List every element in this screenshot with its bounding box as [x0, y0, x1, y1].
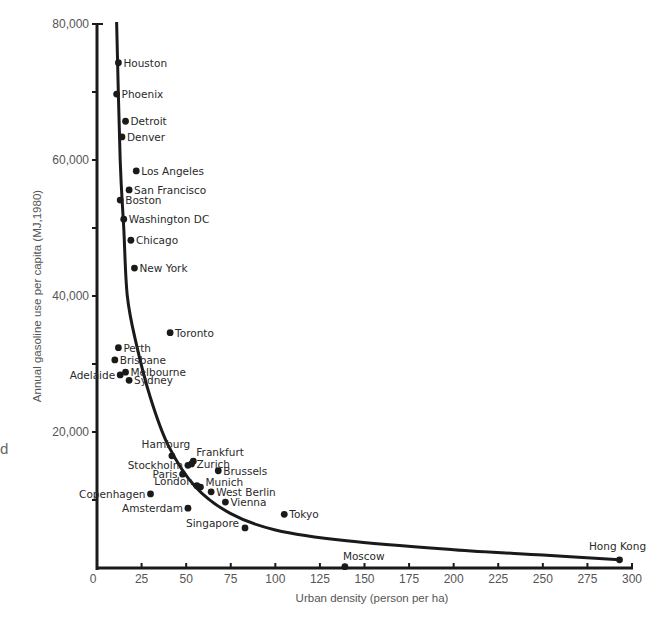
point-label: Adelaide [70, 369, 116, 381]
point-label: Copenhagen [79, 488, 145, 500]
x-tick-label: 75 [224, 572, 238, 586]
point-marker [120, 216, 127, 223]
data-point-hamburg: Hamburg [142, 438, 191, 459]
x-axis: 0255075100125150175200225250275300 [90, 563, 643, 586]
point-label: Moscow [343, 550, 385, 562]
point-marker [117, 197, 124, 204]
y-tick-label: 20,000 [52, 425, 89, 439]
point-marker [341, 563, 348, 570]
point-label: Sydney [134, 374, 173, 386]
x-tick-label: 300 [622, 572, 642, 586]
data-point-brussels: Brussels [215, 465, 267, 477]
data-point-copenhagen: Copenhagen [79, 488, 154, 500]
point-marker [127, 237, 134, 244]
data-point-amsterdam: Amsterdam [122, 502, 191, 514]
x-tick-label: 0 [90, 572, 97, 586]
point-marker [215, 467, 222, 474]
data-point-tokyo: Tokyo [281, 508, 319, 520]
point-marker [147, 490, 154, 497]
data-point-london: London [154, 475, 200, 489]
point-label: Los Angeles [141, 165, 204, 177]
point-marker [222, 499, 229, 506]
data-point-perth: Perth [115, 342, 151, 354]
x-tick-label: 200 [444, 572, 464, 586]
data-point-toronto: Toronto [167, 327, 214, 339]
point-label: Brussels [223, 465, 267, 477]
x-tick-label: 150 [354, 572, 374, 586]
point-marker [113, 91, 120, 98]
x-axis-title: Urban density (person per ha) [296, 592, 449, 604]
x-tick-label: 50 [179, 572, 193, 586]
point-marker [117, 371, 124, 378]
point-label: New York [139, 262, 188, 274]
data-point-washington-dc: Washington DC [120, 213, 209, 225]
point-marker [616, 556, 623, 563]
point-label: London [154, 475, 193, 487]
point-label: Hamburg [142, 438, 191, 450]
point-label: Phoenix [122, 88, 164, 100]
point-label: Singapore [186, 517, 239, 529]
point-marker [185, 462, 192, 469]
x-tick-label: 225 [488, 572, 508, 586]
point-label: Amsterdam [122, 502, 183, 514]
x-tick-label: 100 [265, 572, 285, 586]
x-tick-label: 125 [310, 572, 330, 586]
point-label: Washington DC [129, 213, 209, 225]
point-marker [281, 511, 288, 518]
x-tick-label: 250 [533, 572, 553, 586]
point-marker [133, 167, 140, 174]
point-marker [115, 59, 122, 66]
point-marker [122, 118, 129, 125]
data-point-detroit: Detroit [122, 115, 167, 127]
point-label: Detroit [131, 115, 167, 127]
data-point-brisbane: Brisbane [111, 354, 166, 366]
data-point-houston: Houston [115, 57, 167, 69]
y-axis-title: Annual gasoline use per capita (MJ,1980) [31, 190, 43, 402]
point-marker [185, 505, 192, 512]
point-marker [197, 484, 204, 491]
scatter-chart: 20,00040,00060,00080,000 025507510012515… [0, 0, 671, 626]
point-marker [126, 187, 133, 194]
point-marker [131, 265, 138, 272]
point-label: Boston [125, 194, 161, 206]
point-marker [119, 133, 126, 140]
data-points: HoustonPhoenixDetroitDenverLos AngelesSa… [70, 57, 646, 570]
data-point-adelaide: Adelaide [70, 369, 124, 381]
point-label: Tokyo [288, 508, 318, 520]
x-tick-label: 275 [577, 572, 597, 586]
y-tick-label: 60,000 [52, 153, 89, 167]
point-marker [208, 488, 215, 495]
point-marker [167, 329, 174, 336]
point-label: Chicago [136, 234, 178, 246]
point-label: Perth [123, 342, 151, 354]
point-marker [169, 452, 176, 459]
point-label: Frankfurt [196, 446, 244, 458]
point-marker [115, 344, 122, 351]
x-tick-label: 175 [399, 572, 419, 586]
point-label: Toronto [174, 327, 214, 339]
data-point-chicago: Chicago [127, 234, 178, 246]
data-point-denver: Denver [119, 131, 166, 143]
point-label: Brisbane [120, 354, 166, 366]
x-tick-label: 25 [135, 572, 149, 586]
y-tick-label: 80,000 [52, 17, 89, 31]
y-tick-label: 40,000 [52, 289, 89, 303]
point-label: Denver [127, 131, 166, 143]
data-point-los-angeles: Los Angeles [133, 165, 204, 177]
data-point-phoenix: Phoenix [113, 88, 163, 100]
point-label: Houston [123, 57, 167, 69]
point-label: Hong Kong [589, 540, 646, 552]
point-label: Vienna [230, 496, 266, 508]
point-marker [111, 357, 118, 364]
point-marker [242, 524, 249, 531]
data-point-new-york: New York [131, 262, 188, 274]
point-marker [126, 377, 133, 384]
